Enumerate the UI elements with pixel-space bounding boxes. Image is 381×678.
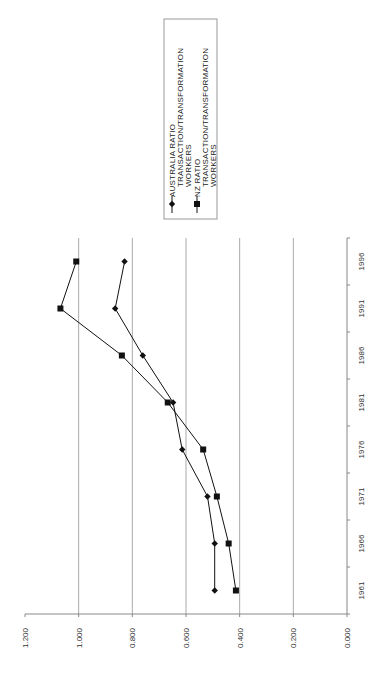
value-tick-label: 1.200 [21, 627, 30, 648]
legend: AUSTRALIA RATIOTRANSACTION/TRANSFORMATIO… [164, 19, 218, 219]
series-line [115, 262, 215, 591]
square-marker-icon [73, 259, 79, 265]
series-australia [112, 258, 218, 593]
category-tick-label: 1971 [357, 487, 366, 505]
square-marker-icon [165, 400, 171, 406]
category-tick-label: 1961 [357, 581, 366, 599]
legend-label: WORKERS [209, 144, 218, 187]
category-tick-label: 1996 [357, 252, 366, 270]
square-marker-icon [57, 306, 63, 312]
diamond-marker-icon [112, 305, 118, 311]
series-nz [57, 259, 238, 594]
diamond-marker-icon [121, 258, 127, 264]
diamond-marker-icon [212, 587, 218, 593]
diamond-marker-icon [170, 399, 176, 405]
diamond-marker-icon [179, 446, 185, 452]
square-marker-icon [119, 353, 125, 359]
category-axis: 19611966197119761981198619911996 [347, 238, 366, 614]
series-lines [57, 258, 238, 593]
diamond-marker-icon [204, 493, 210, 499]
value-tick-label: 1.000 [75, 627, 84, 648]
value-tick-label: 0.400 [236, 627, 245, 648]
chart: 0.0000.2000.4000.6000.8001.0001.200 1961… [0, 0, 381, 678]
legend-label: WORKERS [184, 144, 193, 187]
category-tick-label: 1986 [357, 346, 366, 364]
value-tick-label: 0.200 [289, 627, 298, 648]
series-line [60, 262, 236, 591]
category-tick-label: 1981 [357, 393, 366, 411]
category-tick-label: 1991 [357, 299, 366, 317]
category-tick-label: 1966 [357, 534, 366, 552]
square-marker-icon [226, 541, 232, 547]
legend-square-icon [194, 201, 200, 207]
value-axis: 0.0000.2000.4000.6000.8001.0001.200 [21, 614, 352, 648]
value-tick-label: 0.000 [343, 627, 352, 648]
category-tick-label: 1976 [357, 440, 366, 458]
square-marker-icon [233, 588, 239, 594]
diamond-marker-icon [140, 352, 146, 358]
value-tick-label: 0.800 [128, 627, 137, 648]
diamond-marker-icon [212, 540, 218, 546]
square-marker-icon [200, 447, 206, 453]
value-tick-label: 0.600 [182, 627, 191, 648]
square-marker-icon [214, 494, 220, 500]
